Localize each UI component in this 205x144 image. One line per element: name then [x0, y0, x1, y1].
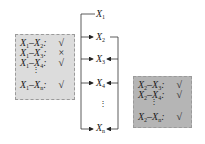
- check-icon: √: [177, 111, 183, 122]
- comparison-row: X2–Xn: √: [138, 112, 191, 122]
- vertical-ellipsis: ⋮: [99, 102, 107, 106]
- check-icon: √: [177, 89, 183, 100]
- node-x4: X4: [96, 78, 105, 91]
- comparison-box-x2: X2–X3: √ X2–X4: √ ⋮ X2–Xn: √: [133, 76, 192, 128]
- node-x1: X1: [96, 9, 105, 22]
- node-xn: Xn: [96, 123, 105, 136]
- node-x3: X3: [96, 54, 105, 67]
- comparison-row: X2–X4: √: [138, 90, 191, 100]
- node-x2: X2: [96, 32, 105, 45]
